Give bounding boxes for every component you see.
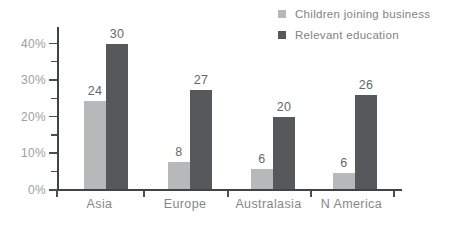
y-tick-label: 10% [6, 147, 46, 159]
bar-education-n-america [355, 95, 377, 189]
y-minor-tick [51, 134, 57, 136]
y-tick-label: 0% [6, 184, 46, 196]
y-minor-tick [51, 171, 57, 173]
bar-value-label: 20 [268, 101, 300, 114]
legend-swatch-education-icon [278, 31, 286, 39]
y-major-tick [49, 79, 57, 81]
y-tick-label: 30% [6, 74, 46, 86]
x-tick [56, 191, 58, 197]
bar-chart: 0%10%20%30%40%2430Asia827Europe620Austra… [0, 0, 454, 225]
x-category-label-n-america: N America [307, 198, 397, 211]
bar-education-europe [190, 90, 212, 189]
y-axis-line [57, 27, 59, 191]
bar-children-europe [168, 162, 190, 189]
x-tick [143, 191, 145, 197]
bar-education-asia [106, 44, 128, 189]
bar-children-australasia [251, 169, 273, 189]
x-axis-line [50, 189, 402, 191]
bar-value-label: 27 [185, 74, 217, 87]
y-major-tick [49, 43, 57, 45]
legend-swatch-children-icon [278, 10, 286, 18]
bar-children-n-america [333, 173, 355, 189]
y-minor-tick [51, 98, 57, 100]
y-major-tick [49, 152, 57, 154]
y-major-tick [49, 116, 57, 118]
bar-children-asia [84, 101, 106, 189]
legend-item-relevant-education: Relevant education [278, 27, 430, 43]
bar-value-label: 26 [350, 79, 382, 92]
x-tick [393, 191, 395, 197]
x-tick [227, 191, 229, 197]
legend-label: Children joining business [295, 8, 430, 20]
bar-education-australasia [273, 117, 295, 189]
y-minor-tick [51, 61, 57, 63]
x-category-label-europe: Europe [140, 198, 230, 211]
x-tick [310, 191, 312, 197]
y-tick-label: 40% [6, 38, 46, 50]
legend: Children joining business Relevant educa… [278, 6, 430, 48]
legend-label: Relevant education [295, 29, 399, 41]
y-tick-label: 20% [6, 111, 46, 123]
bar-value-label: 30 [101, 28, 133, 41]
x-category-label-asia: Asia [55, 198, 145, 211]
x-category-label-australasia: Australasia [224, 198, 314, 211]
legend-item-children-joining-business: Children joining business [278, 6, 430, 22]
